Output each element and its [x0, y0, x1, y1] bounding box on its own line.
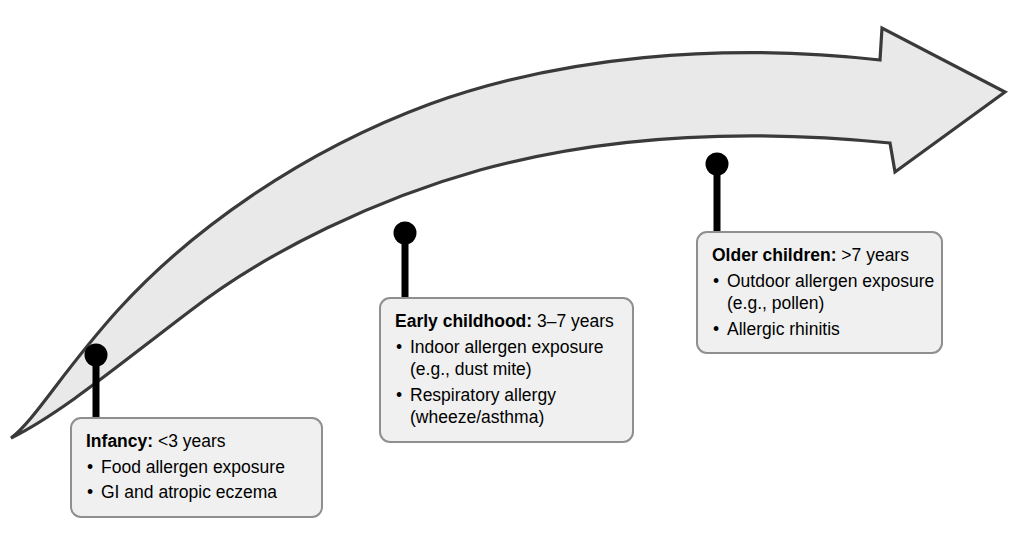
bullet-text: Outdoor allergen exposure	[727, 271, 934, 291]
list-item: Outdoor allergen exposure(e.g., pollen)	[712, 270, 927, 315]
stage-callout-early-childhood: Early childhood: 3–7 years Indoor allerg…	[379, 297, 634, 443]
stage-callout-infancy: Infancy: <3 years Food allergen exposure…	[70, 417, 323, 518]
stage-headline: Older children: >7 years	[712, 244, 927, 267]
stage-headline: Early childhood: 3–7 years	[395, 310, 618, 333]
list-item: GI and atropic eczema	[86, 481, 307, 504]
bullet-continuation: (wheeze/asthma)	[410, 406, 618, 429]
stage-age: >7 years	[836, 245, 908, 265]
bullet-continuation: (e.g., pollen)	[727, 292, 927, 315]
list-item: Food allergen exposure	[86, 456, 307, 479]
bullet-text: Respiratory allergy	[410, 385, 556, 405]
stage-bullet-list: Indoor allergen exposure(e.g., dust mite…	[395, 336, 618, 429]
diagram-canvas: Infancy: <3 years Food allergen exposure…	[0, 0, 1015, 536]
list-item: Indoor allergen exposure(e.g., dust mite…	[395, 336, 618, 381]
connector-older-children	[706, 153, 729, 234]
stage-age: 3–7 years	[532, 311, 614, 331]
stage-headline: Infancy: <3 years	[86, 430, 307, 453]
bullet-continuation: (e.g., dust mite)	[410, 358, 618, 381]
list-item: Allergic rhinitis	[712, 318, 927, 341]
connector-early-childhood	[394, 222, 417, 300]
stage-term: Early childhood:	[395, 311, 532, 331]
stage-bullet-list: Food allergen exposure GI and atropic ec…	[86, 456, 307, 504]
bullet-text: Food allergen exposure	[101, 457, 285, 477]
stage-term: Older children:	[712, 245, 836, 265]
list-item: Respiratory allergy(wheeze/asthma)	[395, 384, 618, 429]
stage-term: Infancy:	[86, 431, 153, 451]
bullet-text: GI and atropic eczema	[101, 482, 277, 502]
bullet-text: Allergic rhinitis	[727, 319, 840, 339]
stage-age: <3 years	[153, 431, 225, 451]
stage-callout-older-children: Older children: >7 years Outdoor allerge…	[696, 231, 943, 354]
bullet-text: Indoor allergen exposure	[410, 337, 604, 357]
stage-bullet-list: Outdoor allergen exposure(e.g., pollen) …	[712, 270, 927, 341]
